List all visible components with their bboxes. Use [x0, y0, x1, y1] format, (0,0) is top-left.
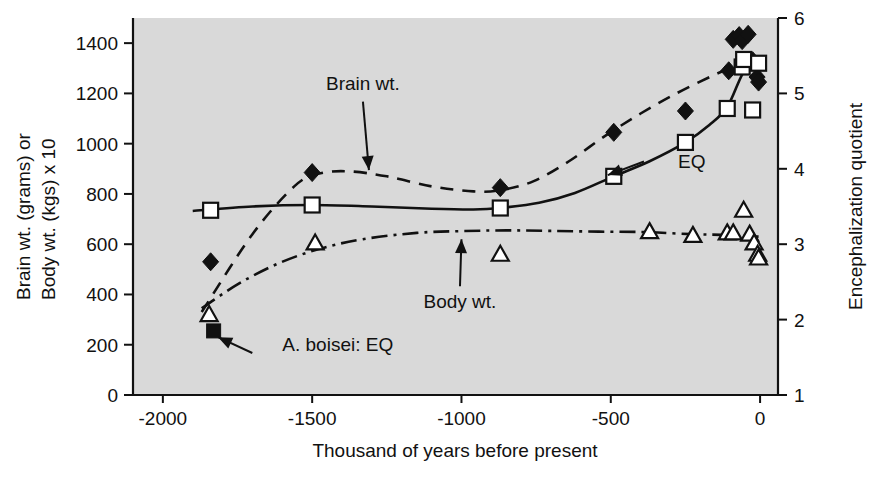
y-tick-label: 0	[107, 385, 118, 406]
x-tick-label: -500	[592, 408, 630, 429]
y2-tick-label: 4	[794, 159, 805, 180]
y-tick-label: 1400	[76, 33, 118, 54]
x-tick-label: -2000	[139, 408, 188, 429]
y2-tick-label: 3	[794, 234, 805, 255]
y-tick-label: 1200	[76, 83, 118, 104]
y2-axis-label: Encephalization quotient	[845, 102, 866, 310]
y-axis-label-line2: Body wt. (kgs) x 10	[38, 138, 59, 300]
y-tick-label: 600	[86, 234, 118, 255]
data-point-open-square	[305, 197, 320, 212]
y-axis-label-line1: Brain wt. (grams) or	[13, 133, 34, 300]
x-axis-label: Thousand of years before present	[312, 440, 598, 461]
x-tick-label: -1000	[437, 408, 486, 429]
data-point-open-square	[720, 101, 735, 116]
x-tick-label: 0	[755, 408, 766, 429]
figure-container: -2000-1500-1000-500002004006008001000120…	[0, 0, 879, 479]
series-a-boisei-eq	[207, 324, 221, 338]
y2-tick-label: 5	[794, 83, 805, 104]
y2-tick-label: 6	[794, 8, 805, 29]
y-tick-label: 1000	[76, 134, 118, 155]
data-point-open-square	[736, 52, 751, 67]
y2-tick-label: 1	[794, 385, 805, 406]
data-point-open-square	[203, 203, 218, 218]
data-point-open-square	[745, 102, 760, 117]
data-point-open-square	[678, 135, 693, 150]
data-point-open-square	[751, 56, 766, 71]
y-tick-label: 400	[86, 284, 118, 305]
data-point-filled-square	[207, 324, 221, 338]
annotation-label: Body wt.	[424, 291, 497, 312]
y-tick-label: 800	[86, 184, 118, 205]
data-point-open-square	[493, 201, 508, 216]
annotation-label: EQ	[678, 151, 705, 172]
annotation-label: Brain wt.	[326, 73, 400, 94]
annotation-label: A. boisei: EQ	[282, 334, 393, 355]
y2-tick-label: 2	[794, 310, 805, 331]
brain-body-eq-chart: -2000-1500-1000-500002004006008001000120…	[0, 0, 879, 479]
x-tick-label: -1500	[288, 408, 337, 429]
y-tick-label: 200	[86, 335, 118, 356]
